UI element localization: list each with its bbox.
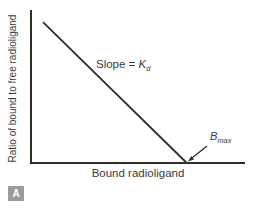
scatchard-line: [43, 22, 187, 163]
x-axis-label: Bound radioligand: [31, 167, 245, 179]
slope-annotation-subscript: d: [146, 64, 150, 73]
bmax-annotation-subscript: max: [217, 136, 231, 145]
slope-annotation: Slope = Kd: [96, 58, 150, 73]
scatchard-plot-figure: Bound radioligand Ratio of bound to free…: [0, 0, 254, 208]
panel-label-badge: A: [8, 186, 24, 201]
y-axis-label: Ratio of bound to free radioligand: [7, 4, 20, 174]
bmax-annotation: Bmax: [210, 130, 232, 145]
bmax-arrow-shaft: [192, 146, 207, 158]
slope-annotation-prefix: Slope =: [96, 58, 139, 70]
